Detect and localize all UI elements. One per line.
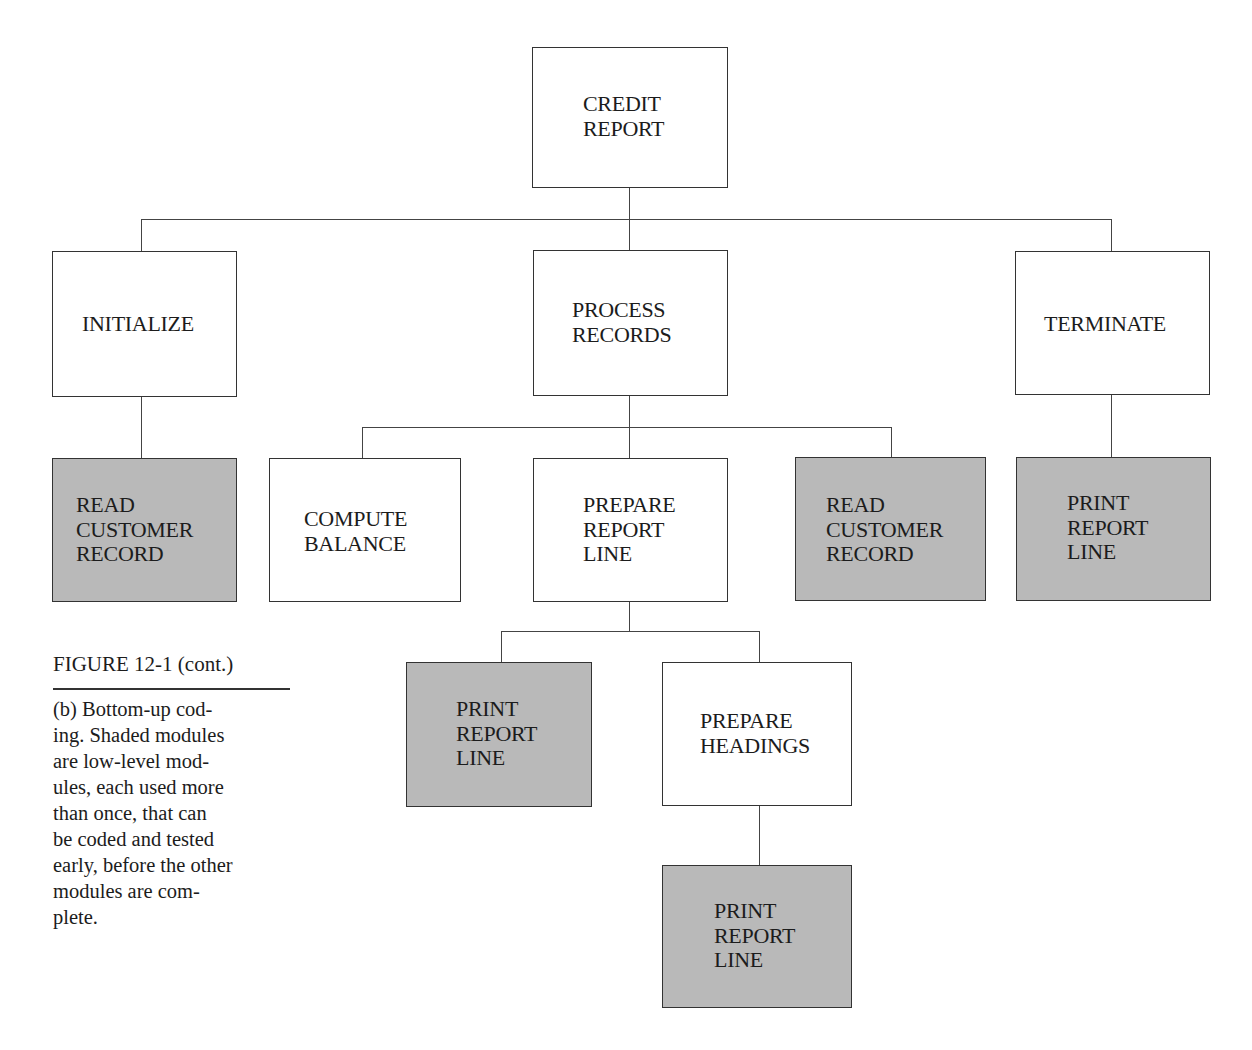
connector-headings-print3 [759,805,760,865]
caption-divider [53,688,290,690]
caption-line: ules, each used more [53,774,293,800]
module-print-report-line-1: PRINTREPORTLINE [1016,457,1211,601]
module-terminate: TERMINATE [1015,251,1210,395]
connector-prepare-line-down [629,601,630,631]
caption-line: ing. Shaded modules [53,722,293,748]
caption-line: than once, that can [53,800,293,826]
connector-to-compute [362,427,363,458]
caption-line: plete. [53,904,293,930]
figure-caption: (b) Bottom-up cod- ing. Shaded modules a… [53,696,293,930]
module-print-report-line-2: PRINTREPORTLINE [406,662,592,807]
caption-line: are low-level mod- [53,748,293,774]
connector-credit-down [629,187,630,219]
connector-to-read2 [891,427,892,457]
connector-to-process [629,219,630,250]
caption-line: modules are com- [53,878,293,904]
module-label: READCUSTOMERRECORD [826,493,943,567]
module-label: READCUSTOMERRECORD [76,493,193,567]
connector-to-terminate [1111,219,1112,251]
connector-to-headings [759,631,760,662]
module-label: CREDITREPORT [583,92,664,141]
module-label: PREPAREHEADINGS [700,709,810,758]
connector-process-down [629,395,630,427]
module-compute-balance: COMPUTEBALANCE [269,458,461,602]
module-label: INITIALIZE [82,312,194,337]
module-label: PRINTREPORTLINE [1067,491,1148,565]
connector-to-initialize [141,219,142,251]
module-initialize: INITIALIZE [52,251,237,397]
module-process-records: PROCESSRECORDS [533,250,728,396]
caption-line: (b) Bottom-up cod- [53,696,293,722]
module-prepare-report-line: PREPAREREPORTLINE [533,458,728,602]
module-label: TERMINATE [1044,312,1166,337]
module-label: PREPAREREPORTLINE [583,493,675,567]
module-read-customer-record-2: READCUSTOMERRECORD [795,457,986,601]
caption-line: be coded and tested [53,826,293,852]
connector-to-print2 [501,631,502,662]
connector-terminate-print [1111,394,1112,457]
connector-level1-bar [141,219,1112,220]
module-label: PRINTREPORTLINE [714,899,795,973]
connector-level3-bar [501,631,759,632]
module-prepare-headings: PREPAREHEADINGS [662,662,852,806]
connector-initialize-read [141,396,142,458]
figure-title: FIGURE 12-1 (cont.) [53,652,233,677]
caption-line: early, before the other [53,852,293,878]
module-label: COMPUTEBALANCE [304,507,407,556]
connector-level2-bar [362,427,892,428]
module-credit-report: CREDITREPORT [532,47,728,188]
module-read-customer-record-1: READCUSTOMERRECORD [52,458,237,602]
module-label: PROCESSRECORDS [572,298,671,347]
module-print-report-line-3: PRINTREPORTLINE [662,865,852,1008]
connector-to-prepare-line [629,427,630,458]
module-label: PRINTREPORTLINE [456,697,537,771]
